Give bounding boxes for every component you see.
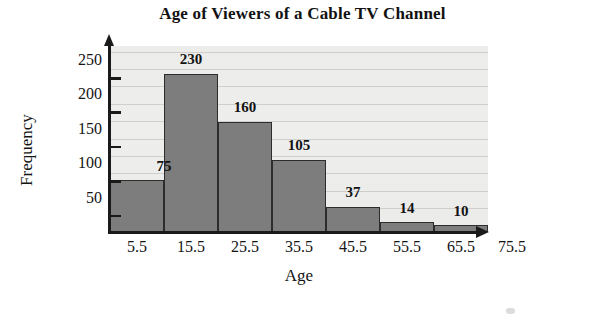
y-axis-tick-75 xyxy=(110,180,121,183)
y-axis-arrow-icon xyxy=(104,34,114,46)
y-axis-line xyxy=(108,44,111,234)
x-axis-label-45-5: 45.5 xyxy=(339,238,367,256)
bar-bin-2 xyxy=(164,74,218,232)
bar-value-label-2: 230 xyxy=(180,51,203,68)
x-axis-label-15-5: 15.5 xyxy=(177,238,205,256)
y-axis-tick-125 xyxy=(110,146,121,149)
bar-value-label-3: 160 xyxy=(234,99,257,116)
bar-value-label-7: 10 xyxy=(454,203,469,220)
y-axis-label-150: 150 xyxy=(56,120,102,138)
x-axis-title: Age xyxy=(110,266,488,286)
y-axis-tick-25 xyxy=(110,215,121,218)
bar-value-label-1: 75 xyxy=(157,158,172,175)
bar-value-label-6: 14 xyxy=(400,200,415,217)
y-axis-label-200: 200 xyxy=(56,85,102,103)
x-axis-label-75-5: 75.5 xyxy=(498,238,526,256)
x-axis-label-5-5: 5.5 xyxy=(127,238,147,256)
bar-bin-3 xyxy=(218,122,272,232)
y-axis-tick-175 xyxy=(110,111,121,114)
x-axis-label-25-5: 25.5 xyxy=(231,238,259,256)
y-axis-label-50: 50 xyxy=(56,189,102,207)
y-axis-tick-225 xyxy=(110,77,121,80)
histogram-figure: Age of Viewers of a Cable TV Channel 75 … xyxy=(0,0,605,326)
x-axis-arrow-icon xyxy=(476,226,489,238)
x-axis-line xyxy=(108,231,478,234)
x-axis-label-35-5: 35.5 xyxy=(285,238,313,256)
y-axis-label-250: 250 xyxy=(56,51,102,69)
x-axis-label-55-5: 55.5 xyxy=(393,238,421,256)
x-axis-label-65-5: 65.5 xyxy=(447,238,475,256)
bar-value-label-4: 105 xyxy=(288,137,311,154)
y-axis-label-100: 100 xyxy=(56,154,102,172)
bar-bin-4 xyxy=(272,160,326,232)
chart-title: Age of Viewers of a Cable TV Channel xyxy=(0,4,605,24)
bar-bin-5 xyxy=(326,207,380,233)
bar-bin-1 xyxy=(110,180,164,232)
y-axis-title: Frequency xyxy=(17,90,37,210)
bar-value-label-5: 37 xyxy=(346,184,361,201)
scan-artifact xyxy=(506,308,515,314)
